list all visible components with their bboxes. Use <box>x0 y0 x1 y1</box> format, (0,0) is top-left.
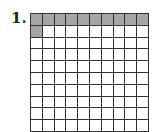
grid-cell <box>125 85 137 97</box>
grid-cell <box>90 61 102 73</box>
grid-cell <box>90 97 102 109</box>
grid-cell <box>125 108 137 120</box>
grid-cell-shaded <box>55 14 67 26</box>
grid-cell <box>114 108 126 120</box>
grid-cell <box>137 97 149 109</box>
grid-cell-shaded <box>114 14 126 26</box>
grid-cell <box>55 38 67 50</box>
grid-cell <box>102 38 114 50</box>
grid-cell <box>43 49 55 61</box>
grid-cell <box>43 73 55 85</box>
grid-cell-shaded <box>90 14 102 26</box>
grid-cell <box>66 49 78 61</box>
grid-cell <box>137 38 149 50</box>
grid-cell <box>66 38 78 50</box>
grid-cell <box>55 85 67 97</box>
grid-cell <box>55 120 67 132</box>
grid-cell <box>137 120 149 132</box>
grid-cell-shaded <box>125 14 137 26</box>
grid-cell-shaded <box>78 14 90 26</box>
grid-cell <box>137 108 149 120</box>
grid-cell <box>55 108 67 120</box>
grid-cell <box>114 73 126 85</box>
grid-cell <box>55 61 67 73</box>
grid-cell <box>125 61 137 73</box>
grid-cell <box>102 97 114 109</box>
grid-cell <box>31 108 43 120</box>
grid-cell <box>90 26 102 38</box>
grid-cell <box>66 26 78 38</box>
grid-cell <box>125 73 137 85</box>
grid-cell <box>55 49 67 61</box>
grid-cell <box>78 61 90 73</box>
grid-cell <box>78 120 90 132</box>
grid-cell <box>43 85 55 97</box>
grid-cell <box>78 108 90 120</box>
grid-cell <box>114 61 126 73</box>
hundred-grid <box>30 13 149 132</box>
grid-cell <box>66 73 78 85</box>
grid-cell <box>78 26 90 38</box>
grid-cell-shaded <box>102 14 114 26</box>
grid-cell <box>114 85 126 97</box>
grid-cell <box>102 73 114 85</box>
grid-cell <box>102 61 114 73</box>
grid-cell-shaded <box>31 14 43 26</box>
grid-cell <box>137 49 149 61</box>
grid-cell <box>102 85 114 97</box>
grid-cell <box>125 120 137 132</box>
grid-cell <box>31 38 43 50</box>
grid-cell <box>90 108 102 120</box>
grid-cell <box>114 120 126 132</box>
grid-cell <box>43 97 55 109</box>
grid-cell <box>102 108 114 120</box>
grid-cell <box>90 85 102 97</box>
grid-cell <box>78 97 90 109</box>
grid-cell <box>125 97 137 109</box>
grid-cell <box>55 97 67 109</box>
grid-cell <box>66 120 78 132</box>
grid-cell <box>43 26 55 38</box>
grid-cell <box>78 85 90 97</box>
grid-cell-shaded <box>31 26 43 38</box>
grid-cell <box>137 26 149 38</box>
grid-cell <box>66 61 78 73</box>
grid-cell <box>137 61 149 73</box>
grid-cell <box>66 97 78 109</box>
grid-cell <box>90 120 102 132</box>
grid-cell-shaded <box>66 14 78 26</box>
grid-cell <box>114 38 126 50</box>
grid-cell <box>125 38 137 50</box>
grid-cell <box>31 49 43 61</box>
grid-cell <box>125 26 137 38</box>
grid-cell-shaded <box>43 14 55 26</box>
grid-cell <box>43 61 55 73</box>
grid-cell <box>55 73 67 85</box>
grid-cell <box>78 49 90 61</box>
grid-cell <box>31 61 43 73</box>
grid-cell-shaded <box>137 14 149 26</box>
grid-cell <box>43 120 55 132</box>
grid-cell <box>31 85 43 97</box>
grid-cell <box>66 85 78 97</box>
grid-cell <box>102 26 114 38</box>
grid-cell <box>137 85 149 97</box>
grid-cell <box>31 97 43 109</box>
problem-number: 1. <box>11 9 27 27</box>
grid-cell <box>114 49 126 61</box>
grid-cell <box>114 26 126 38</box>
grid-cell <box>90 73 102 85</box>
grid-cell <box>66 108 78 120</box>
grid-cell <box>78 38 90 50</box>
grid-cell <box>125 49 137 61</box>
grid-cell <box>114 97 126 109</box>
grid-cell <box>102 120 114 132</box>
grid-cell <box>137 73 149 85</box>
grid-cell <box>55 26 67 38</box>
grid-cell <box>43 108 55 120</box>
grid-cell <box>31 73 43 85</box>
grid-cell <box>78 73 90 85</box>
grid-cell <box>102 49 114 61</box>
grid-cell <box>90 38 102 50</box>
grid-cell <box>43 38 55 50</box>
